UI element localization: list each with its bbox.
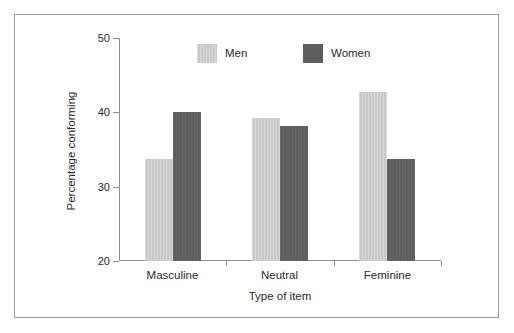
y-axis-tick-label: 50: [88, 33, 110, 44]
y-axis-tick-label: 30: [88, 182, 110, 193]
y-axis-tick: [113, 38, 119, 39]
y-axis-line: [119, 38, 120, 261]
legend-swatch-women-icon: [303, 44, 323, 63]
plot-area: 50403020 MasculineNeutralFeminine Type o…: [0, 0, 514, 333]
y-axis-tick-label-text: 50: [88, 33, 110, 44]
x-axis-label-masculine: Masculine: [119, 268, 226, 282]
legend-swatch-men-icon: [197, 44, 217, 63]
bar-feminine-men[interactable]: [359, 92, 387, 261]
y-axis-tick: [113, 261, 119, 262]
y-axis-title: Percentage conforming: [65, 61, 77, 241]
bar-feminine-women[interactable]: [387, 159, 415, 261]
x-axis-tick: [226, 261, 227, 266]
x-axis-tick: [441, 261, 442, 266]
legend-label-men: Men: [225, 47, 247, 59]
legend-label-women: Women: [331, 47, 370, 59]
x-axis-label-neutral: Neutral: [226, 268, 333, 282]
x-axis-title: Type of item: [119, 290, 441, 302]
y-axis-tick: [113, 187, 119, 188]
y-axis-tick: [113, 112, 119, 113]
y-axis-tick-label-text: 20: [88, 256, 110, 267]
y-axis-tick-label: 20: [88, 256, 110, 267]
y-axis-tick-label-text: 40: [88, 107, 110, 118]
y-axis-tick-label-text: 30: [88, 182, 110, 193]
x-axis-label-feminine: Feminine: [334, 268, 441, 282]
figure-canvas: 50403020 MasculineNeutralFeminine Type o…: [0, 0, 514, 333]
bar-masculine-women[interactable]: [173, 112, 201, 261]
bar-neutral-men[interactable]: [252, 118, 280, 261]
bar-masculine-men[interactable]: [145, 159, 173, 261]
bar-neutral-women[interactable]: [280, 126, 308, 261]
y-axis-tick-label: 40: [88, 107, 110, 118]
x-axis-tick: [334, 261, 335, 266]
